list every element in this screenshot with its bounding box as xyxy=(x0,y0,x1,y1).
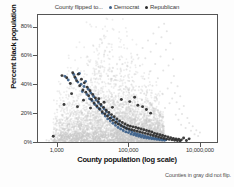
data-point xyxy=(148,120,150,122)
data-point xyxy=(120,78,122,80)
data-point xyxy=(67,139,69,141)
data-point xyxy=(77,139,79,141)
data-point xyxy=(149,115,151,117)
data-point xyxy=(126,35,128,37)
y-tick-label: 80% xyxy=(21,23,32,29)
data-point xyxy=(157,127,159,129)
data-point xyxy=(85,99,87,101)
data-point xyxy=(132,125,135,128)
data-point xyxy=(143,123,145,125)
data-point xyxy=(153,128,155,130)
data-point xyxy=(150,126,152,128)
data-point xyxy=(136,104,139,107)
data-point xyxy=(66,73,68,75)
data-point xyxy=(117,101,119,103)
data-point xyxy=(114,98,116,100)
data-point xyxy=(83,70,85,72)
data-point xyxy=(73,111,75,113)
data-point xyxy=(157,77,159,79)
y-axis-title: Percent black population xyxy=(9,0,18,112)
data-point xyxy=(129,121,131,123)
data-point xyxy=(138,89,140,91)
data-point xyxy=(54,113,56,115)
data-point xyxy=(181,113,183,115)
data-point xyxy=(66,90,68,92)
data-point xyxy=(60,102,62,104)
data-point xyxy=(76,134,78,136)
data-point xyxy=(107,75,109,77)
data-point xyxy=(159,90,161,92)
data-point xyxy=(185,139,188,142)
data-point xyxy=(66,134,68,136)
data-point xyxy=(183,105,185,107)
data-point xyxy=(107,111,110,114)
data-point xyxy=(195,129,197,131)
data-point xyxy=(90,78,92,80)
data-point xyxy=(160,131,162,133)
data-point xyxy=(158,26,160,28)
data-point xyxy=(69,82,72,85)
data-point xyxy=(85,121,87,123)
data-point xyxy=(77,67,79,69)
data-point xyxy=(156,116,158,118)
data-point xyxy=(60,121,62,123)
data-point xyxy=(97,63,99,65)
data-point xyxy=(89,86,91,88)
y-tick-line xyxy=(33,84,37,85)
data-point xyxy=(112,19,114,21)
data-point xyxy=(94,97,97,100)
data-point xyxy=(118,120,121,123)
data-point xyxy=(149,112,152,115)
data-point xyxy=(99,38,101,40)
data-point xyxy=(100,62,102,64)
data-point xyxy=(140,140,142,142)
data-point xyxy=(68,70,70,72)
data-point xyxy=(143,78,145,80)
data-point xyxy=(71,111,73,113)
data-point xyxy=(125,104,127,106)
data-point xyxy=(111,111,113,113)
data-point xyxy=(128,92,130,94)
data-point xyxy=(155,81,157,83)
data-point xyxy=(77,119,79,121)
data-point xyxy=(123,94,125,96)
data-point xyxy=(103,112,106,115)
data-point xyxy=(86,108,88,110)
data-point xyxy=(73,139,75,141)
data-point xyxy=(85,110,87,112)
data-point xyxy=(77,73,80,76)
data-point xyxy=(175,114,177,116)
data-point xyxy=(140,128,143,131)
data-point xyxy=(168,65,170,67)
data-point xyxy=(87,94,90,97)
data-point xyxy=(143,72,145,74)
data-point xyxy=(132,114,134,116)
data-point xyxy=(65,123,67,125)
data-point xyxy=(74,118,76,120)
data-point xyxy=(134,89,136,91)
data-point xyxy=(148,125,150,127)
data-point xyxy=(125,134,127,136)
data-point xyxy=(180,124,182,126)
data-point xyxy=(137,127,140,130)
data-point xyxy=(94,88,96,90)
data-point xyxy=(103,56,105,58)
data-point xyxy=(159,125,161,127)
data-point xyxy=(151,106,153,108)
data-point xyxy=(119,112,121,114)
data-point xyxy=(98,58,100,60)
data-point xyxy=(116,132,118,134)
data-point xyxy=(135,116,137,118)
data-point xyxy=(97,140,99,142)
data-point xyxy=(96,82,98,84)
data-point xyxy=(91,139,93,141)
data-point xyxy=(78,84,81,87)
data-point xyxy=(87,113,89,115)
data-point xyxy=(122,136,124,138)
data-point xyxy=(111,137,113,139)
data-point xyxy=(113,138,115,140)
data-point xyxy=(124,97,126,99)
data-point xyxy=(137,100,139,102)
data-point xyxy=(94,124,96,126)
data-point xyxy=(186,117,188,119)
